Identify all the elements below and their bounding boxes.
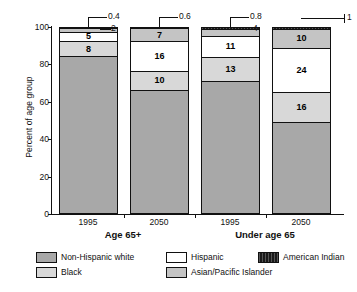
callout-4: 4 — [253, 23, 258, 33]
leader-line — [301, 18, 344, 19]
segment-value: 11 — [226, 42, 236, 51]
y-tick-label: 80 — [40, 59, 49, 69]
leader-line — [159, 17, 160, 28]
legend-swatch-icon — [166, 252, 187, 263]
legend-swatch-icon — [36, 252, 57, 263]
leader-line — [159, 17, 178, 18]
x-tick-label-1995-under65: 1995 — [195, 217, 265, 227]
chart-container: Percent of age group 100 80 60 40 20 0 5… — [0, 0, 357, 292]
segment-value: 16 — [296, 103, 306, 112]
y-tick-label: 40 — [40, 134, 49, 144]
legend-label: Black — [61, 267, 82, 278]
segment-black: 13 — [202, 58, 259, 82]
x-axis-line — [51, 214, 344, 215]
segment-value: 10 — [296, 34, 306, 43]
leader-line — [242, 29, 253, 30]
segment-black: 16 — [273, 93, 330, 123]
legend-swatch-icon — [258, 252, 279, 263]
leader-line — [230, 17, 231, 28]
segment-non-hispanic-white — [60, 57, 117, 213]
segment-black: 10 — [131, 72, 188, 91]
bar-under65-1995[interactable]: 11 13 — [201, 27, 260, 214]
segment-value: 10 — [154, 76, 164, 85]
chart-legend: Non-Hispanic white Hispanic American Ind… — [36, 252, 352, 282]
legend-label: American Indian — [283, 252, 344, 263]
legend-item-black[interactable]: Black — [36, 267, 166, 278]
leader-line — [88, 17, 89, 28]
legend-label: Asian/Pacific Islander — [191, 267, 272, 278]
group-label-under65: Under age 65 — [195, 229, 335, 240]
leader-line — [230, 17, 249, 18]
x-tick-label-1995-age65plus: 1995 — [53, 217, 123, 227]
leader-line — [88, 17, 107, 18]
y-axis-title: Percent of age group — [24, 22, 34, 212]
plot-area: 5 8 7 16 10 11 — [52, 27, 343, 214]
callout-2: 2 — [111, 23, 116, 33]
legend-swatch-icon — [166, 267, 187, 278]
segment-value: 8 — [86, 45, 91, 54]
y-tick-label: 100 — [35, 22, 49, 32]
bar-under65-2050[interactable]: 10 24 16 — [272, 27, 331, 214]
leader-line — [100, 29, 111, 30]
callout-1: 1 — [347, 12, 352, 22]
legend-swatch-icon — [36, 267, 57, 278]
segment-value: 16 — [154, 52, 164, 61]
callout-0.4: 0.4 — [108, 11, 120, 21]
segment-non-hispanic-white — [131, 91, 188, 213]
legend-label: Non-Hispanic white — [61, 252, 134, 263]
legend-row-1: Non-Hispanic white Hispanic American Ind… — [36, 252, 352, 263]
legend-item-non-hispanic-white[interactable]: Non-Hispanic white — [36, 252, 166, 263]
group-label-age65plus: Age 65+ — [53, 229, 193, 240]
segment-hispanic: 5 — [60, 33, 117, 42]
callout-0.6: 0.6 — [179, 11, 191, 21]
bar-age65plus-1995[interactable]: 5 8 — [59, 27, 118, 214]
y-tick-label: 60 — [40, 97, 49, 107]
legend-item-american-indian[interactable]: American Indian — [258, 252, 344, 263]
segment-asian-pacific: 10 — [273, 30, 330, 49]
bar-age65plus-2050[interactable]: 7 16 10 — [130, 27, 189, 214]
y-tick-label: 0 — [44, 209, 49, 219]
segment-non-hispanic-white — [273, 123, 330, 213]
legend-item-asian-pacific-islander[interactable]: Asian/Pacific Islander — [166, 267, 272, 278]
segment-asian-pacific — [202, 30, 259, 37]
leader-line — [344, 14, 345, 23]
segment-black: 8 — [60, 42, 117, 57]
legend-item-hispanic[interactable]: Hispanic — [166, 252, 258, 263]
segment-value: 13 — [225, 65, 235, 74]
segment-hispanic: 11 — [202, 37, 259, 58]
segment-hispanic: 24 — [273, 49, 330, 94]
y-tick-label: 20 — [40, 172, 49, 182]
legend-row-2: Black Asian/Pacific Islander — [36, 267, 352, 278]
segment-asian-pacific: 7 — [131, 29, 188, 42]
segment-value: 24 — [296, 66, 306, 75]
x-tick-label-2050-age65plus: 2050 — [124, 217, 194, 227]
segment-value: 5 — [86, 33, 91, 42]
segment-hispanic: 16 — [131, 42, 188, 72]
segment-non-hispanic-white — [202, 82, 259, 213]
legend-label: Hispanic — [191, 252, 224, 263]
segment-value: 7 — [157, 31, 162, 40]
x-tick-label-2050-under65: 2050 — [266, 217, 336, 227]
callout-0.8: 0.8 — [250, 11, 262, 21]
